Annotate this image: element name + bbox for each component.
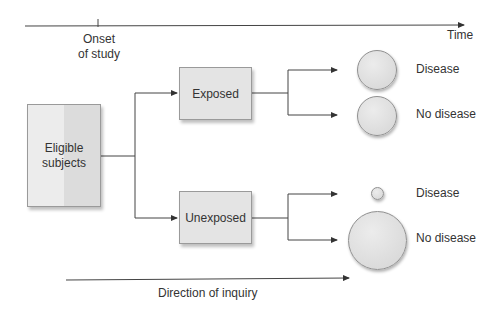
unexposed-no-disease-circle [348,211,407,270]
exposed-no-disease-circle [357,96,397,136]
eligible-subjects-box: Eligible subjects [27,104,101,207]
eligible-line1: Eligible [42,141,86,156]
direction-of-inquiry-label: Direction of inquiry [158,286,257,300]
onset-line2: of study [75,47,123,62]
time-label: Time [447,28,473,42]
unexposed-box: Unexposed [179,191,252,244]
exposed-no-disease-label: No disease [416,107,476,121]
onset-of-study-label: Onset of study [75,32,123,62]
unexposed-disease-label: Disease [416,186,459,200]
eligible-line2: subjects [42,156,86,171]
exposed-box: Exposed [179,67,252,120]
cohort-study-diagram: Onset of study Time Eligible subjects Ex… [0,0,497,311]
unexposed-no-disease-label: No disease [416,231,476,245]
exposed-disease-circle [357,50,397,90]
exposed-disease-label: Disease [416,62,459,76]
onset-line1: Onset [75,32,123,47]
unexposed-disease-circle [371,187,384,200]
